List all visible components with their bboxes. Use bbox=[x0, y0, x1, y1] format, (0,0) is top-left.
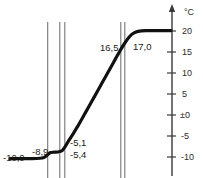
point-label-16-5: 16,5 bbox=[100, 43, 119, 53]
point-label-17-0: 17,0 bbox=[133, 42, 152, 52]
y-tick-label-15: 15 bbox=[182, 48, 192, 57]
point-label-minus-10-0: -10,0 bbox=[3, 153, 25, 163]
point-label-minus-5-1: -5,1 bbox=[70, 138, 86, 148]
temperature-chart: 20 15 10 5 ±0 -5 -10 °C -10,0 -8,9 -5,1 … bbox=[0, 0, 203, 178]
point-label-minus-8-9: -8,9 bbox=[32, 147, 48, 157]
y-tick-label-minus10: -10 bbox=[181, 153, 194, 162]
y-tick-label-5: 5 bbox=[182, 90, 187, 99]
unit-label: °C bbox=[184, 8, 194, 17]
y-tick-label-20: 20 bbox=[182, 27, 192, 36]
y-tick-label-minus5: -5 bbox=[181, 132, 189, 141]
y-tick-label-0: ±0 bbox=[180, 111, 190, 120]
y-axis-arrow-icon bbox=[169, 4, 175, 12]
y-tick-label-10: 10 bbox=[182, 69, 192, 78]
chart-canvas bbox=[0, 0, 203, 178]
point-label-minus-5-4: -5,4 bbox=[70, 150, 86, 160]
